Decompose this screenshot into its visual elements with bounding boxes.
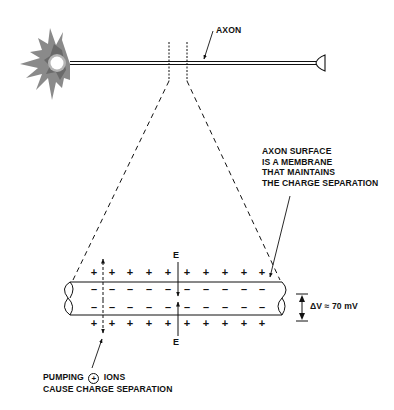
svg-text:+: + — [184, 266, 190, 278]
svg-text:–: – — [222, 301, 228, 313]
svg-text:–: – — [241, 301, 247, 313]
svg-text:+: + — [203, 266, 209, 278]
pumping-label-pre: PUMPING — [43, 372, 84, 382]
svg-text:–: – — [109, 301, 115, 313]
neuron-soma — [20, 28, 70, 100]
svg-text:+: + — [222, 266, 228, 278]
svg-text:+: + — [222, 317, 228, 329]
svg-text:–: – — [184, 283, 190, 295]
membrane-label-line3: THAT MAINTAINS — [262, 167, 378, 178]
svg-text:–: – — [165, 283, 171, 295]
axon-diagram: +++ +++ +++ + ––– ––– ––– – ––– ––– ––– … — [0, 0, 394, 410]
svg-text:–: – — [127, 283, 133, 295]
svg-text:–: – — [91, 301, 97, 313]
pumping-label-line1: PUMPING + IONS — [43, 372, 172, 384]
membrane-label: AXON SURFACE IS A MEMBRANE THAT MAINTAIN… — [262, 146, 378, 188]
svg-text:+: + — [146, 317, 152, 329]
pumping-pointer-arrow — [92, 339, 102, 368]
nucleus — [51, 57, 64, 70]
pumping-label-post: IONS — [104, 372, 125, 382]
e-field-label-bottom: E — [173, 337, 179, 348]
svg-text:–: – — [203, 283, 209, 295]
membrane-pointer-arrow — [270, 196, 290, 277]
svg-text:+: + — [241, 317, 247, 329]
svg-text:+: + — [165, 266, 171, 278]
e-field-label-top: E — [173, 250, 179, 261]
svg-text:–: – — [146, 301, 152, 313]
pumping-label-line2: CAUSE CHARGE SEPARATION — [43, 384, 172, 395]
axon-label: AXON — [216, 25, 241, 36]
axon-terminal — [316, 55, 325, 71]
axon-fiber — [70, 62, 318, 65]
plus-ion-icon: + — [88, 373, 99, 384]
svg-text:–: – — [109, 283, 115, 295]
svg-text:–: – — [203, 301, 209, 313]
svg-text:+: + — [165, 317, 171, 329]
svg-text:+: + — [203, 317, 209, 329]
voltage-dimension — [296, 294, 308, 321]
svg-text:+: + — [91, 317, 97, 329]
membrane-label-line4: THE CHARGE SEPARATION — [262, 178, 378, 189]
membrane-label-line2: IS A MEMBRANE — [262, 157, 378, 168]
membrane-cylinder — [64, 282, 286, 315]
svg-text:+: + — [109, 317, 115, 329]
svg-text:–: – — [91, 283, 97, 295]
svg-text:–: – — [165, 301, 171, 313]
svg-text:–: – — [241, 283, 247, 295]
svg-text:+: + — [241, 266, 247, 278]
svg-text:–: – — [184, 301, 190, 313]
svg-text:+: + — [127, 266, 133, 278]
svg-text:+: + — [146, 266, 152, 278]
svg-text:–: – — [127, 301, 133, 313]
svg-text:–: – — [259, 301, 265, 313]
svg-text:–: – — [222, 283, 228, 295]
pumping-label: PUMPING + IONS CAUSE CHARGE SEPARATION — [43, 372, 172, 395]
svg-text:+: + — [127, 317, 133, 329]
svg-text:+: + — [259, 317, 265, 329]
svg-text:–: – — [146, 283, 152, 295]
axon-pointer-arrow — [204, 31, 213, 59]
membrane-label-line1: AXON SURFACE — [262, 146, 378, 157]
svg-text:+: + — [184, 317, 190, 329]
svg-text:+: + — [259, 266, 265, 278]
voltage-label: ΔV ≈ 70 mV — [310, 301, 358, 312]
svg-text:+: + — [91, 266, 97, 278]
svg-text:+: + — [109, 266, 115, 278]
svg-text:–: – — [259, 283, 265, 295]
